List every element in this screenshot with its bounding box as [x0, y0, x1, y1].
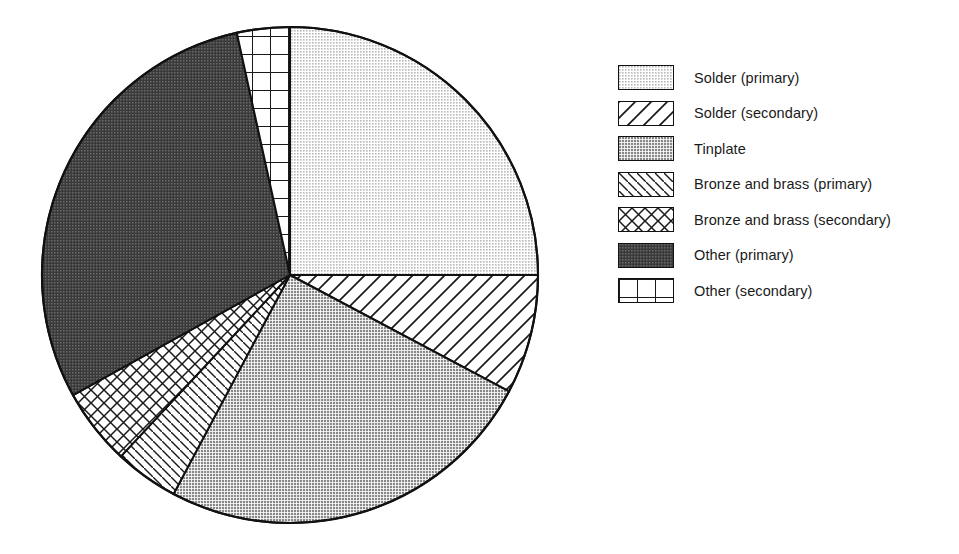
legend-item-label: Solder (primary) [694, 70, 800, 86]
legend-item: Bronze and brass (secondary) [618, 202, 948, 238]
legend-item: Bronze and brass (primary) [618, 167, 948, 203]
legend-item: Tinplate [618, 131, 948, 167]
pie-slices-group: Solder (primary)Solder (secondary)Tinpla… [42, 27, 538, 523]
swatch-solder-primary [618, 65, 674, 90]
swatch-tinplate [618, 136, 674, 161]
swatch-bronze-primary [618, 172, 674, 197]
chart-legend: Solder (primary)Solder (secondary)Tinpla… [618, 60, 948, 309]
legend-item-label: Other (primary) [694, 247, 794, 263]
legend-item-label: Bronze and brass (primary) [694, 176, 872, 192]
swatch-solder-secondary [618, 101, 674, 126]
legend-item-label: Tinplate [694, 141, 746, 157]
pie-slice: Solder (primary) [290, 27, 538, 275]
swatch-other-primary [618, 243, 674, 268]
legend-item-label: Solder (secondary) [694, 105, 818, 121]
pie-chart-figure: Solder (primary)Solder (secondary)Tinpla… [0, 0, 959, 554]
legend-item: Other (primary) [618, 238, 948, 274]
legend-item: Solder (secondary) [618, 96, 948, 132]
legend-item-label: Other (secondary) [694, 283, 813, 299]
legend-item: Solder (primary) [618, 60, 948, 96]
legend-item: Other (secondary) [618, 273, 948, 309]
swatch-other-secondary [618, 278, 674, 303]
legend-item-label: Bronze and brass (secondary) [694, 212, 891, 228]
swatch-bronze-secondary [618, 207, 674, 232]
